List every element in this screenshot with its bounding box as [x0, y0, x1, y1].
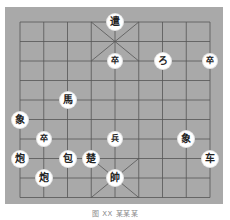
cannon-piece[interactable]: 炮 [12, 151, 28, 167]
chariot-piece[interactable]: 车 [202, 151, 218, 167]
figure-caption: 图 XX 某某某 [0, 208, 230, 218]
soldier-piece[interactable]: 兵 [108, 132, 122, 146]
cannon-piece[interactable]: 炮 [36, 170, 52, 186]
general-piece-top[interactable]: 遣 [107, 14, 123, 30]
soldier-piece[interactable]: 卒 [108, 54, 122, 68]
soldier-piece[interactable]: 卒 [37, 132, 51, 146]
xiangqi-board: 遣卒ろ卒馬象卒兵象炮包楚车炮帥 [5, 7, 223, 204]
chu-piece[interactable]: 楚 [83, 151, 99, 167]
horse-piece[interactable]: 馬 [60, 92, 76, 108]
cannon-piece[interactable]: 包 [60, 151, 76, 167]
elephant-piece[interactable]: 象 [12, 112, 28, 128]
general-piece-bottom[interactable]: 帥 [107, 170, 123, 186]
soldier-piece[interactable]: 卒 [203, 54, 217, 68]
elephant-piece-top[interactable]: ろ [155, 53, 171, 69]
